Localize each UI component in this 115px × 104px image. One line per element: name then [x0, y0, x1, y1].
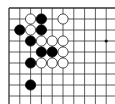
- white-stone-icon: [58, 47, 68, 57]
- black-stone-icon: [26, 58, 36, 68]
- white-stone-icon: [58, 58, 68, 68]
- black-stone-icon: [15, 25, 25, 35]
- white-stone-icon: [58, 14, 68, 24]
- black-stone-icon: [36, 47, 46, 57]
- white-stone-icon: [26, 25, 36, 35]
- white-stone-icon: [36, 36, 46, 46]
- white-stone-icon: [47, 36, 57, 46]
- white-stone-icon: [36, 58, 46, 68]
- black-stone-icon: [36, 25, 46, 35]
- go-board[interactable]: [0, 0, 115, 104]
- white-stone-icon: [58, 36, 68, 46]
- white-stone-icon: [26, 14, 36, 24]
- black-stone-icon: [36, 14, 46, 24]
- star-point-icon: [105, 39, 108, 42]
- black-stone-icon: [26, 80, 36, 90]
- star-points: [105, 39, 108, 42]
- black-stone-icon: [47, 47, 57, 57]
- white-stone-icon: [47, 58, 57, 68]
- black-stone-icon: [26, 36, 36, 46]
